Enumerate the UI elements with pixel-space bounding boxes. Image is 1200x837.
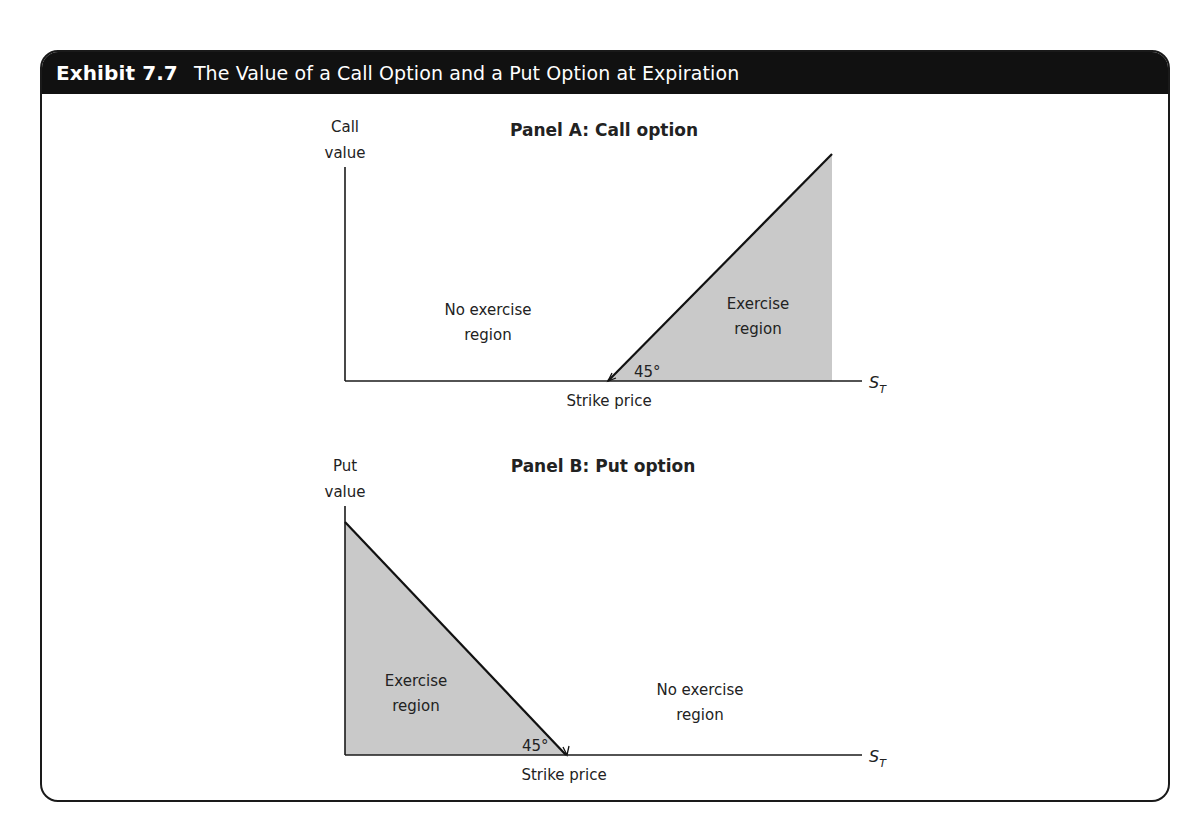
panel-a-right-region-line1: Exercise xyxy=(727,295,789,313)
panel-a-x-label: ST xyxy=(869,373,887,396)
panel-b-put-option: Panel B: Put option Put value 45° Exerci… xyxy=(325,456,888,784)
panel-b-x-label: ST xyxy=(869,747,887,770)
option-payoff-figure: Panel A: Call option Call value 45° No e… xyxy=(0,0,1200,837)
panel-a-y-label-line1: Call xyxy=(331,118,359,136)
panel-b-right-region-line1: No exercise xyxy=(656,681,743,699)
panel-a-angle-label: 45° xyxy=(634,363,661,381)
panel-b-left-region-line2: region xyxy=(392,697,439,715)
panel-a-left-region-line1: No exercise xyxy=(444,301,531,319)
panel-b-y-label-line1: Put xyxy=(333,457,357,475)
panel-a-strike-label: Strike price xyxy=(566,392,651,410)
panel-b-strike-label: Strike price xyxy=(521,766,606,784)
panel-a-y-label-line2: value xyxy=(325,144,366,162)
panel-b-y-label-line2: value xyxy=(325,483,366,501)
panel-a-call-option: Panel A: Call option Call value 45° No e… xyxy=(325,118,888,410)
panel-b-right-region-line2: region xyxy=(676,706,723,724)
panel-a-title: Panel A: Call option xyxy=(510,120,698,140)
panel-b-angle-label: 45° xyxy=(522,737,549,755)
panel-a-right-region-line2: region xyxy=(734,320,781,338)
panel-b-left-region-line1: Exercise xyxy=(385,672,447,690)
panel-b-title: Panel B: Put option xyxy=(511,456,696,476)
panel-a-left-region-line2: region xyxy=(464,326,511,344)
